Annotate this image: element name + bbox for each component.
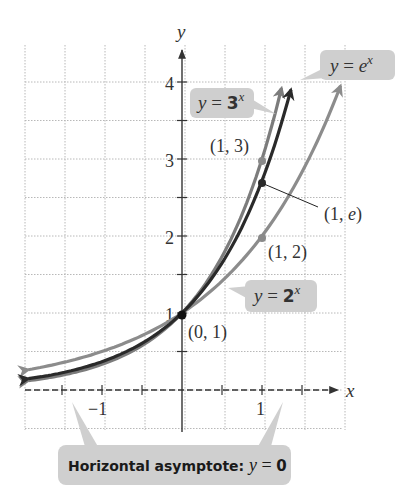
svg-text:Horizontal asymptote: y = 0: Horizontal asymptote: y = 0 (68, 455, 287, 475)
callout-e-to-x: y = xex (300, 50, 395, 80)
point-0-1 (178, 311, 187, 320)
x-tick-label-1: 1 (256, 399, 265, 419)
point-1-e (258, 179, 266, 187)
y-tick-label-3: 3 (165, 151, 174, 171)
point-1-3 (258, 157, 266, 165)
callout-2-to-x: y = 2x (228, 280, 317, 312)
x-tick-label-neg1: −1 (88, 399, 107, 419)
curve-2-to-x (28, 86, 340, 370)
point-1-2 (258, 234, 266, 242)
callout-3-to-x: y = 3x (190, 88, 276, 118)
y-axis-label: y (175, 21, 186, 42)
y-tick-label-4: 4 (165, 74, 174, 94)
x-axis-label: x (345, 380, 355, 401)
leader-1-e (264, 184, 318, 207)
point-label-1-3: (1, 3) (210, 136, 249, 157)
curve-e-to-x (28, 90, 291, 379)
point-label-0-1: (0, 1) (188, 322, 227, 343)
exponential-functions-chart: x y −1 1 1 2 3 4 (0, 1) (1, 3) (1, 2) (1… (0, 0, 407, 503)
svg-text:y = 3x: y = 3x (196, 89, 245, 113)
y-tick-label-2: 2 (165, 228, 174, 248)
axes (25, 50, 338, 432)
svg-text:y = xex: y = xex (328, 52, 373, 76)
point-label-1-e: (1, e) (324, 204, 362, 225)
svg-text:y = 2x: y = 2x (252, 282, 301, 306)
point-label-1-2: (1, 2) (268, 242, 307, 263)
